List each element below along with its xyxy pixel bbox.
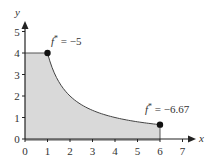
- point-annotation: f* = −6.67: [145, 102, 190, 115]
- x-tick-label: 5: [135, 145, 141, 157]
- x-axis-arrow-icon: [188, 136, 196, 143]
- x-tick-label: 0: [22, 145, 28, 157]
- x-ticks: 01234567: [22, 139, 186, 157]
- y-tick-label: 3: [14, 69, 20, 81]
- y-axis-arrow-icon: [22, 21, 29, 29]
- y-tick-label: 2: [14, 90, 20, 102]
- y-tick-label: 1: [14, 112, 20, 124]
- x-tick-label: 2: [67, 145, 73, 157]
- x-axis-label: x: [198, 132, 204, 144]
- optimal-point: [44, 50, 50, 56]
- chart: 01234567 x 012345 y f* = −5f* = −6.67: [0, 0, 208, 163]
- x-tick-label: 4: [112, 145, 118, 157]
- y-ticks: 012345: [14, 26, 25, 146]
- x-tick-label: 6: [157, 145, 163, 157]
- feasible-region: [25, 53, 160, 139]
- optimal-point: [157, 121, 163, 127]
- x-tick-label: 7: [180, 145, 186, 157]
- x-tick-label: 1: [45, 145, 51, 157]
- y-tick-label: 4: [14, 47, 20, 59]
- x-tick-label: 3: [90, 145, 96, 157]
- y-axis-label: y: [14, 6, 20, 18]
- y-tick-label: 0: [14, 133, 20, 145]
- point-annotation: f* = −5: [51, 34, 82, 47]
- y-tick-label: 5: [14, 26, 20, 38]
